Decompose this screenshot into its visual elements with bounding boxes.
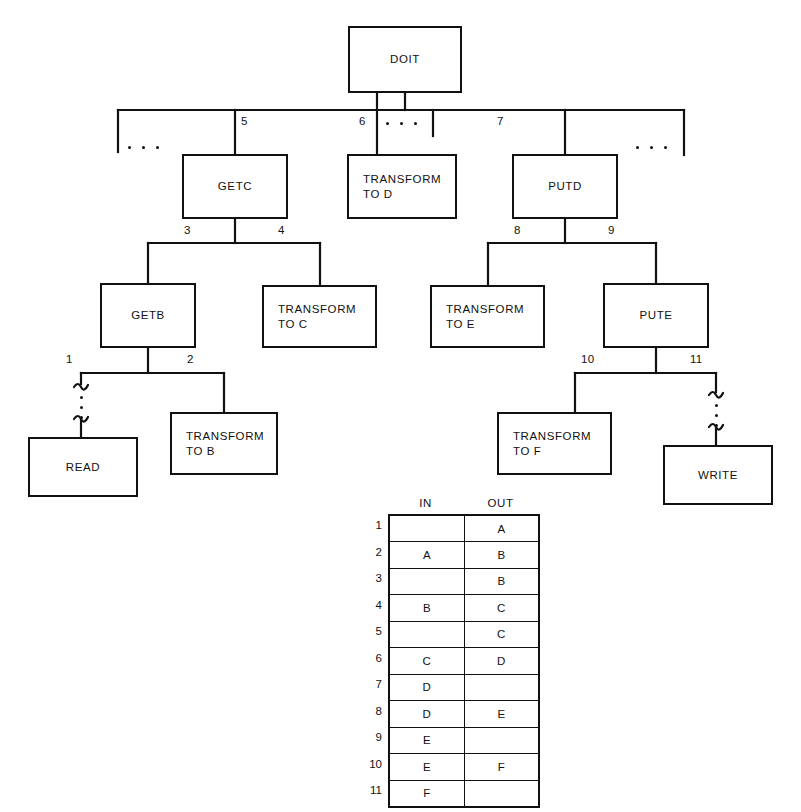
cell-in: D bbox=[389, 701, 464, 728]
edge-number-11: 11 bbox=[690, 353, 703, 365]
cell-out: F bbox=[464, 754, 539, 781]
node-transform-to-b[interactable]: TRANSFORM TO B bbox=[170, 412, 278, 475]
edge-number-2: 2 bbox=[187, 353, 194, 365]
table-row: A bbox=[389, 515, 539, 542]
table-row: D bbox=[389, 674, 539, 701]
table-row-number: 10 bbox=[360, 758, 382, 770]
table-row: E bbox=[389, 727, 539, 754]
table-row: B C bbox=[389, 595, 539, 622]
table-row: A B bbox=[389, 542, 539, 569]
table-row-number: 2 bbox=[360, 546, 382, 558]
table-row: F bbox=[389, 780, 539, 807]
node-transform-to-f[interactable]: TRANSFORM TO F bbox=[497, 412, 612, 475]
table-row: E F bbox=[389, 754, 539, 781]
node-pute[interactable]: PUTE bbox=[603, 283, 709, 348]
table-row-number: 6 bbox=[360, 652, 382, 664]
table-row: C D bbox=[389, 648, 539, 675]
node-label: GETB bbox=[131, 308, 165, 323]
node-label: DOIT bbox=[390, 52, 420, 67]
edge-number-6: 6 bbox=[359, 115, 366, 127]
table-row-number: 5 bbox=[360, 625, 382, 637]
node-label: TRANSFORM TO E bbox=[432, 302, 543, 332]
cell-out bbox=[464, 674, 539, 701]
cell-in: E bbox=[389, 727, 464, 754]
center-branch-ellipsis-icon bbox=[386, 122, 417, 125]
node-doit[interactable]: DOIT bbox=[348, 26, 462, 93]
node-putd[interactable]: PUTD bbox=[512, 154, 618, 219]
edge-number-3: 3 bbox=[184, 224, 191, 236]
left-branch-ellipsis-icon bbox=[128, 146, 159, 149]
node-getc[interactable]: GETC bbox=[182, 154, 288, 219]
cell-out: D bbox=[464, 648, 539, 675]
table-row-number: 7 bbox=[360, 678, 382, 690]
io-table: IN OUT 1 2 3 4 5 6 7 8 9 10 11 A A B B B… bbox=[388, 514, 540, 808]
node-write[interactable]: WRITE bbox=[663, 445, 773, 505]
node-label: READ bbox=[66, 460, 100, 475]
edge-number-5: 5 bbox=[241, 115, 248, 127]
io-table-grid: A A B B B C C C D D bbox=[388, 514, 540, 808]
edge-number-10: 10 bbox=[581, 353, 594, 365]
cell-out: C bbox=[464, 595, 539, 622]
cell-in: A bbox=[389, 542, 464, 569]
table-row-number: 8 bbox=[360, 705, 382, 717]
node-label: TRANSFORM TO C bbox=[264, 302, 375, 332]
cell-out bbox=[464, 780, 539, 807]
cell-in bbox=[389, 621, 464, 648]
table-row-number: 4 bbox=[360, 599, 382, 611]
table-row-number: 1 bbox=[360, 519, 382, 531]
cell-in: C bbox=[389, 648, 464, 675]
node-getb[interactable]: GETB bbox=[100, 283, 196, 348]
cell-out bbox=[464, 727, 539, 754]
cell-out: B bbox=[464, 542, 539, 569]
right-branch-ellipsis-icon bbox=[636, 146, 667, 149]
edge-number-4: 4 bbox=[278, 224, 285, 236]
cell-in bbox=[389, 515, 464, 542]
table-row: D E bbox=[389, 701, 539, 728]
table-header-in: IN bbox=[388, 497, 463, 509]
node-label: PUTE bbox=[639, 308, 672, 323]
table-row: C bbox=[389, 621, 539, 648]
edge-number-7: 7 bbox=[497, 115, 504, 127]
cell-in: E bbox=[389, 754, 464, 781]
table-row-number: 11 bbox=[360, 784, 382, 796]
cell-out: A bbox=[464, 515, 539, 542]
cell-in bbox=[389, 568, 464, 595]
read-link-break-ellipsis-icon bbox=[80, 396, 83, 419]
node-label: WRITE bbox=[698, 468, 738, 483]
cell-in: B bbox=[389, 595, 464, 622]
table-row: B bbox=[389, 568, 539, 595]
cell-out: B bbox=[464, 568, 539, 595]
write-link-break-ellipsis-icon bbox=[715, 404, 718, 427]
node-transform-to-c[interactable]: TRANSFORM TO C bbox=[262, 285, 377, 348]
node-label: PUTD bbox=[548, 179, 582, 194]
node-label: TRANSFORM TO D bbox=[349, 172, 455, 202]
edge-number-8: 8 bbox=[514, 224, 521, 236]
table-row-number: 3 bbox=[360, 572, 382, 584]
cell-in: F bbox=[389, 780, 464, 807]
edge-number-9: 9 bbox=[608, 224, 615, 236]
node-label: GETC bbox=[218, 179, 252, 194]
node-transform-to-e[interactable]: TRANSFORM TO E bbox=[430, 285, 545, 348]
edge-number-1: 1 bbox=[66, 353, 73, 365]
table-header-out: OUT bbox=[463, 497, 538, 509]
node-read[interactable]: READ bbox=[28, 437, 138, 497]
cell-in: D bbox=[389, 674, 464, 701]
node-label: TRANSFORM TO B bbox=[172, 429, 276, 459]
cell-out: C bbox=[464, 621, 539, 648]
node-label: TRANSFORM TO F bbox=[499, 429, 610, 459]
table-row-number: 9 bbox=[360, 731, 382, 743]
cell-out: E bbox=[464, 701, 539, 728]
node-transform-to-d[interactable]: TRANSFORM TO D bbox=[347, 154, 457, 219]
